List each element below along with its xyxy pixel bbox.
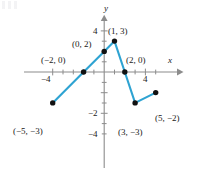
point-label-2-0: (2, 0) bbox=[126, 56, 146, 65]
y-axis-label: y bbox=[104, 4, 108, 13]
y-axis-arrowhead bbox=[101, 15, 108, 21]
y-axis bbox=[101, 15, 108, 168]
data-point-marker bbox=[50, 100, 55, 105]
point-label-0-2: (0, 2) bbox=[72, 40, 92, 49]
y-tick-label-neg4: −4 bbox=[88, 130, 98, 139]
graph-figure: y x −4 4 4 −2 −4 (−5, −3) (−2, 0) (0, 2)… bbox=[0, 0, 197, 175]
y-tick-label-neg2: −2 bbox=[88, 109, 98, 118]
x-axis-arrowhead bbox=[177, 69, 184, 76]
data-point-marker bbox=[112, 38, 117, 43]
data-point-marker bbox=[153, 90, 158, 95]
data-point-marker bbox=[102, 49, 107, 54]
data-point-marker bbox=[122, 69, 127, 74]
x-axis-label: x bbox=[168, 56, 172, 65]
data-point-marker bbox=[132, 100, 137, 105]
cartesian-plane bbox=[0, 0, 197, 175]
data-point-marker bbox=[81, 69, 86, 74]
point-label-1-3: (1, 3) bbox=[108, 27, 128, 36]
point-label-3-neg3: (3, −3) bbox=[118, 128, 143, 137]
x-tick-label-4: 4 bbox=[143, 75, 148, 84]
x-tick-label-neg4: −4 bbox=[41, 75, 51, 84]
point-label-5-neg2: (5, −2) bbox=[155, 114, 180, 123]
y-tick-label-4: 4 bbox=[93, 27, 98, 36]
point-label-neg2-0: (−2, 0) bbox=[41, 56, 66, 65]
point-label-neg5-neg3: (−5, −3) bbox=[13, 127, 43, 136]
